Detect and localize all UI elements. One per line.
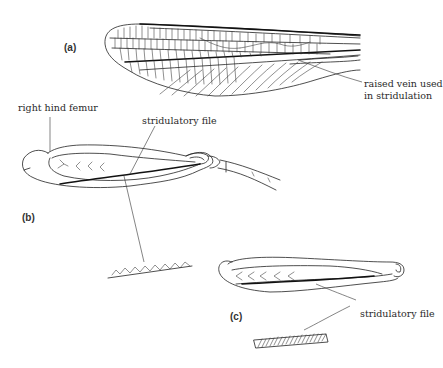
panel-label-b: (b) [22,212,35,223]
right-hind-femur-label: right hind femur [18,102,98,113]
raised-vein-label-line2: in stridulation [364,90,432,101]
panel-label-a: (a) [64,42,76,53]
raised-vein-label-line1: raised vein used [364,78,443,89]
panel-label-c: (c) [230,311,242,322]
wing-illustration [105,24,362,96]
stridulatory-file-label-c: stridulatory file [360,308,435,319]
stridulation-diagram: (a) raised vein used in stridulation rig… [0,0,443,368]
stridulatory-file-label-b: stridulatory file [142,115,217,126]
file-b-magnified [108,262,192,278]
file-c-magnified [254,334,328,348]
femur-b-illustration [22,117,280,262]
femur-c-illustration [219,257,404,330]
